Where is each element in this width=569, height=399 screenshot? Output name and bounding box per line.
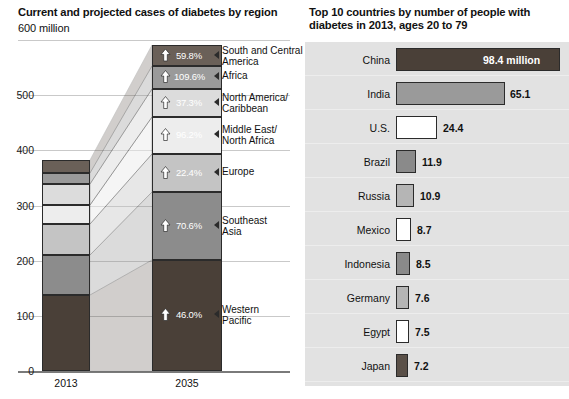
region-label-africa: Africa	[222, 70, 248, 81]
bar-mexico	[396, 218, 411, 241]
x-axis-line	[18, 371, 290, 373]
y-tick-0: 0	[0, 365, 34, 377]
left-chart-unit-label: 600 million	[18, 22, 69, 34]
y-tick-500: 500	[0, 89, 34, 101]
leader-marker-icon	[214, 168, 219, 176]
top-countries-plot-area: China 98.4 million India 65.1 U.S. 24.4 …	[305, 42, 569, 386]
leader-marker-icon	[214, 72, 219, 80]
growth-label-western-pacific: 46.0%	[176, 309, 202, 320]
value-mexico: 8.7	[417, 224, 432, 236]
value-indonesia: 8.5	[416, 258, 431, 270]
bar-2013-europe	[42, 224, 90, 255]
leader-marker-icon	[214, 310, 219, 318]
value-brazil: 11.9	[422, 156, 442, 168]
bar-indonesia	[396, 252, 410, 275]
region-label-western-pacific: WesternPacific	[222, 304, 259, 326]
country-label-japan: Japan	[305, 360, 390, 372]
gridline-600	[18, 40, 290, 41]
bar-germany	[396, 286, 409, 309]
value-germany: 7.6	[415, 292, 430, 304]
growth-arrow-icon	[160, 218, 171, 233]
bar-2013-south-central-america	[42, 160, 90, 173]
value-india: 65.1	[510, 88, 530, 100]
x-tick-2035: 2035	[157, 377, 217, 389]
value-japan: 7.2	[414, 360, 429, 372]
leader-marker-icon	[214, 51, 219, 59]
diabetes-by-region-chart: Current and projected cases of diabetes …	[0, 0, 296, 399]
top-countries-chart: Top 10 countries by number of people wit…	[305, 0, 569, 399]
leader-marker-icon	[214, 221, 219, 229]
leader-marker-icon	[214, 130, 219, 138]
country-label-germany: Germany	[305, 292, 390, 304]
y-tick-300: 300	[0, 200, 34, 212]
bar-2013-africa	[42, 173, 90, 184]
country-label-brazil: Brazil	[305, 156, 390, 168]
bar-brazil	[396, 150, 416, 173]
x-tick-2013: 2013	[36, 377, 96, 389]
bar-egypt	[396, 320, 409, 343]
region-label-north-america-caribbean: North America/Caribbean	[222, 92, 288, 114]
right-chart-title: Top 10 countries by number of people wit…	[309, 6, 559, 32]
bar-japan	[396, 354, 408, 377]
growth-arrow-icon	[160, 48, 171, 62]
y-tick-400: 400	[0, 144, 34, 156]
value-us: 24.4	[443, 122, 463, 134]
growth-label-europe: 22.4%	[176, 167, 202, 178]
bar-2013-western-pacific	[42, 295, 90, 371]
value-russia: 10.9	[420, 190, 440, 202]
country-label-indonesia: Indonesia	[305, 258, 390, 270]
country-label-russia: Russia	[305, 190, 390, 202]
growth-arrow-icon	[160, 69, 171, 84]
value-egypt: 7.5	[415, 326, 430, 338]
y-tick-100: 100	[0, 310, 34, 322]
growth-label-africa: 109.6%	[174, 71, 205, 82]
bar-2013-middle-east-north-africa	[42, 205, 90, 224]
country-label-egypt: Egypt	[305, 326, 390, 338]
region-label-europe: Europe	[222, 166, 254, 177]
y-tick-200: 200	[0, 255, 34, 267]
country-label-china: China	[305, 54, 390, 66]
country-label-mexico: Mexico	[305, 224, 390, 236]
region-label-middle-east-north-africa: Middle East/North Africa	[222, 124, 277, 146]
left-chart-title: Current and projected cases of diabetes …	[18, 6, 293, 19]
bar-2013-southeast-asia	[42, 255, 90, 295]
growth-label-southeast-asia: 70.6%	[176, 220, 202, 231]
bar-india	[396, 82, 505, 105]
growth-label-middle-east-north-africa: 96.2%	[176, 129, 202, 140]
bar-russia	[396, 184, 414, 207]
growth-arrow-icon	[160, 165, 171, 180]
growth-arrow-icon	[160, 95, 171, 110]
growth-label-north-america-caribbean: 37.3%	[176, 97, 202, 108]
region-label-south-central-america: South and CentralAmerica	[222, 45, 303, 67]
bar-2013-north-america-caribbean	[42, 184, 90, 205]
country-label-us: U.S.	[305, 122, 390, 134]
leader-marker-icon	[214, 98, 219, 106]
value-china: 98.4 million	[483, 54, 540, 66]
growth-arrow-icon	[160, 127, 171, 142]
bar-us	[396, 116, 437, 139]
growth-label-south-central-america: 59.8%	[176, 50, 202, 61]
region-label-southeast-asia: SoutheastAsia	[222, 215, 267, 237]
country-label-india: India	[305, 88, 390, 100]
growth-arrow-icon	[160, 307, 171, 322]
